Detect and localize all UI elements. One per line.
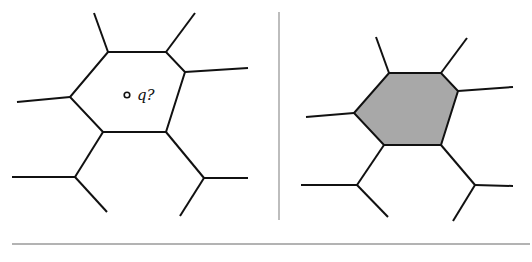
voronoi-edge — [75, 177, 107, 212]
voronoi-edge — [166, 132, 204, 178]
query-label: q? — [137, 86, 156, 104]
voronoi-edge — [475, 185, 513, 186]
voronoi-edge — [166, 13, 195, 52]
query-point-marker — [124, 92, 130, 98]
highlighted-voronoi-cell — [354, 73, 458, 145]
right-panel-voronoi-diagram — [301, 37, 513, 221]
voronoi-edge — [453, 185, 475, 221]
voronoi-edge — [180, 178, 204, 216]
voronoi-edge — [17, 97, 70, 102]
voronoi-edge — [306, 113, 354, 117]
voronoi-edge — [94, 13, 108, 52]
voronoi-edge — [185, 68, 248, 72]
voronoi-edge — [357, 185, 388, 217]
voronoi-edge — [441, 38, 467, 73]
voronoi-edge — [357, 145, 384, 185]
voronoi-edge — [458, 87, 513, 91]
voronoi-figure: q? — [0, 0, 532, 262]
voronoi-edge — [441, 145, 475, 185]
left-panel-voronoi-diagram: q? — [12, 13, 248, 216]
voronoi-edge — [376, 37, 389, 73]
voronoi-edge — [75, 132, 103, 177]
